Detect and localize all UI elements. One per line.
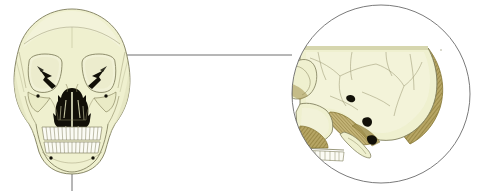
inset-speck — [440, 49, 442, 51]
upper-teeth-row — [42, 127, 102, 140]
anatomical-figure — [0, 0, 482, 196]
left-mental-foramen — [49, 156, 52, 159]
left-infraorbital-foramen — [36, 94, 39, 97]
right-mental-foramen — [91, 156, 94, 159]
right-infraorbital-foramen — [104, 94, 107, 97]
vault-cut-edge — [300, 46, 428, 50]
skull-illustration-canvas — [0, 0, 482, 196]
lower-teeth-row — [44, 142, 100, 153]
